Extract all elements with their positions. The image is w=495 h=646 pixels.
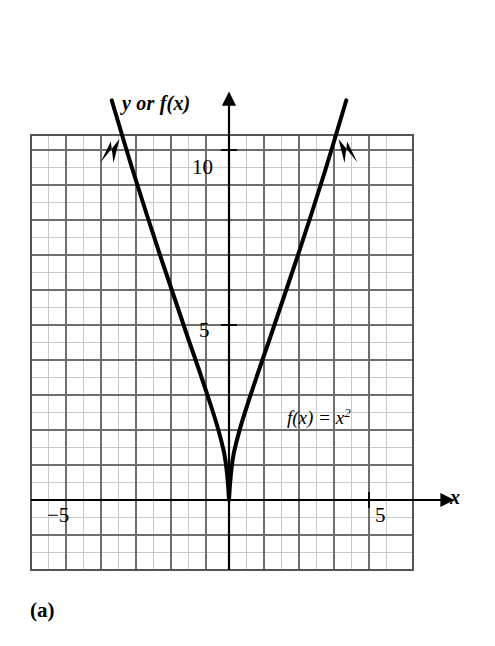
curve-equation-base: f(x) = x xyxy=(287,407,344,428)
plot-canvas xyxy=(0,0,495,646)
y-axis-title: y or f(x) xyxy=(122,92,190,115)
figure-parabola: y or f(x) x 10 5 5 −5 f(x) = x2 (a) xyxy=(0,0,495,646)
figure-caption: (a) xyxy=(30,598,55,623)
x-tick-label-5: 5 xyxy=(375,503,386,528)
x-tick-label-minus-5: −5 xyxy=(47,503,69,528)
plot-frame xyxy=(31,135,413,570)
grid-minor xyxy=(31,135,413,570)
tick-marks xyxy=(221,150,369,508)
y-tick-label-5: 5 xyxy=(199,318,210,343)
curve-equation-label: f(x) = x2 xyxy=(287,405,351,429)
y-tick-label-10: 10 xyxy=(192,155,213,180)
curve-arrow-left xyxy=(101,139,120,163)
x-axis-title: x xyxy=(450,486,460,509)
curve-arrow-right xyxy=(339,139,358,163)
curve-equation-exponent: 2 xyxy=(344,405,351,420)
grid-major xyxy=(31,135,413,570)
